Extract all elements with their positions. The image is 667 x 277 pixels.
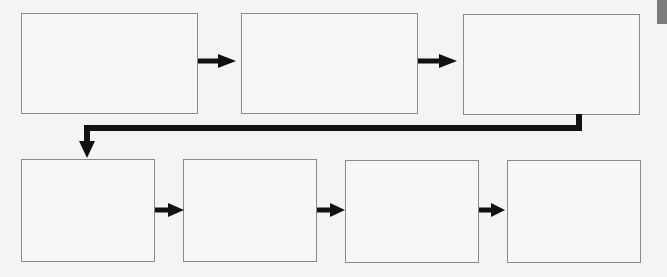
side-tab-marker bbox=[657, 0, 667, 24]
elbow-arrow-step-3-to-4 bbox=[79, 114, 582, 158]
arrow-step-1-to-2 bbox=[198, 54, 236, 68]
connector-layer bbox=[0, 0, 667, 277]
arrow-step-4-to-5 bbox=[155, 203, 184, 217]
arrow-step-2-to-3 bbox=[418, 54, 457, 68]
flowchart-canvas bbox=[0, 0, 667, 277]
arrow-step-5-to-6 bbox=[317, 203, 345, 217]
arrow-step-6-to-7 bbox=[479, 203, 505, 217]
